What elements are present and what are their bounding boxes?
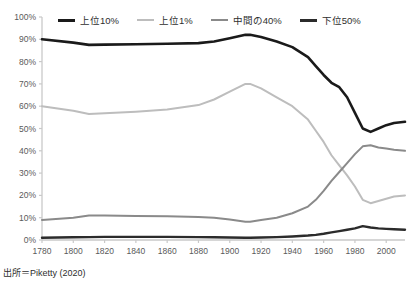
- x-tick-label: 1840: [126, 246, 145, 256]
- x-tick-label: 1820: [95, 246, 114, 256]
- x-tick-label: 1980: [345, 246, 364, 256]
- x-tick-label: 1800: [64, 246, 83, 256]
- series-line: [42, 226, 405, 238]
- y-tick-label: 50%: [19, 124, 36, 134]
- y-tick-label: 80%: [19, 57, 36, 67]
- x-tick-label: 1940: [283, 246, 302, 256]
- x-tick-label: 1920: [252, 246, 271, 256]
- x-tick-label: 1880: [189, 246, 208, 256]
- series-line: [42, 145, 405, 221]
- x-tick-label: 1900: [220, 246, 239, 256]
- source-note: 出所＝Piketty (2020): [3, 266, 86, 279]
- x-tick-label: 1960: [314, 246, 333, 256]
- y-tick-label: 60%: [19, 101, 36, 111]
- y-tick-label: 100%: [14, 12, 36, 22]
- y-tick-label: 30%: [19, 168, 36, 178]
- x-tick-label: 2000: [377, 246, 396, 256]
- series-line: [42, 35, 405, 132]
- y-tick-label: 0%: [24, 235, 37, 245]
- y-tick-label: 10%: [19, 213, 36, 223]
- plot-area: 0%10%20%30%40%50%60%70%80%90%100%1780180…: [0, 0, 413, 286]
- x-tick-label: 1860: [158, 246, 177, 256]
- y-tick-label: 90%: [19, 34, 36, 44]
- y-tick-label: 40%: [19, 146, 36, 156]
- x-tick-label: 1780: [33, 246, 52, 256]
- chart-figure: 上位10% 上位1% 中間の40% 下位50% 0%10%20%30%40%50…: [0, 0, 413, 286]
- y-tick-label: 20%: [19, 190, 36, 200]
- y-tick-label: 70%: [19, 79, 36, 89]
